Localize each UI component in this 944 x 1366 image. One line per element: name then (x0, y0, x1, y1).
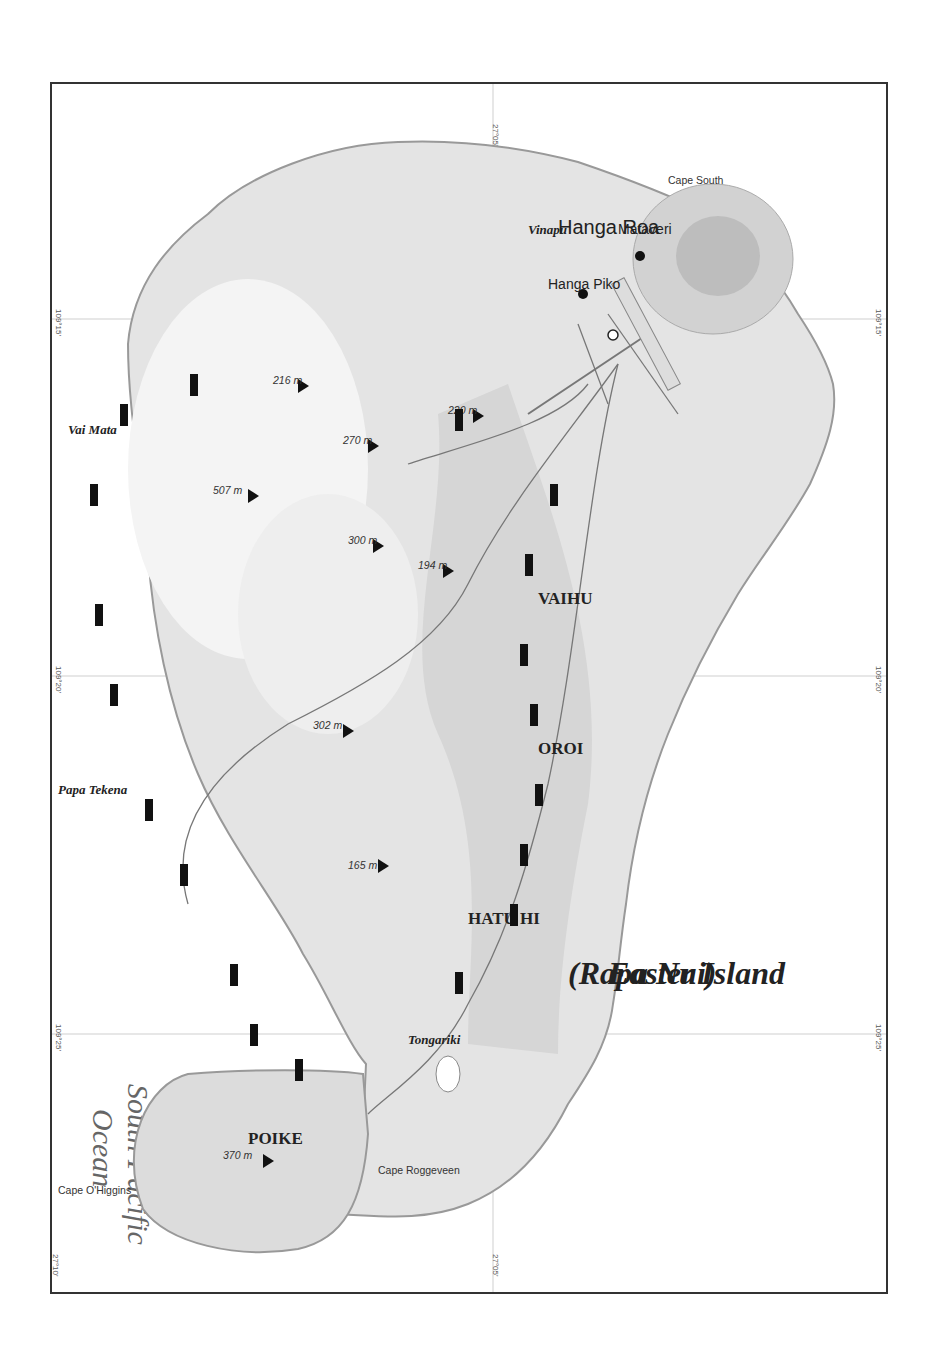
lon-tick-1: 109°15' (874, 309, 883, 336)
peak-tuutapu: 270 m (342, 434, 372, 446)
ahu-papa-tekena: Papa Tekena (58, 782, 128, 797)
hanga-roa-marker (608, 330, 618, 340)
cape-south: Cape South (668, 174, 724, 186)
peak-o-tuu: 300 m (348, 534, 377, 546)
ahu-tongariki: Tongariki (408, 1032, 461, 1047)
mataveri-marker (635, 251, 645, 261)
ahu-vai-mata: Vai Mata (68, 422, 117, 437)
rotated-map-canvas: 27°05' 27°05' 27°10' 109°15' 109°15' 109… (50, 84, 888, 1294)
district-hatu-hi: HATU HI (468, 909, 540, 928)
lon-tick-3: 109°20' (874, 666, 883, 693)
map-frame: 27°05' 27°05' 27°10' 109°15' 109°15' 109… (50, 82, 888, 1294)
peak-kote-miro-oone: 194 m (418, 559, 447, 571)
lon-tick-2: 109°15' (54, 309, 63, 336)
lat-tick-2: 27°05' (491, 1254, 500, 1277)
district-oroi: OROI (538, 739, 584, 758)
island (128, 141, 834, 1252)
lon-tick-4: 109°20' (54, 666, 63, 693)
peak-pui: 302 m (313, 719, 342, 731)
district-poike: POIKE (248, 1129, 303, 1148)
lat-tick-3: 27°10' (51, 1254, 60, 1277)
map-title-2: (Rapa Nui) (568, 955, 716, 991)
peak-vaka-kipo: 216 m (272, 374, 302, 386)
peak-terevaka: 507 m (213, 484, 242, 496)
cape-ohiggins: Cape O'Higgins (58, 1184, 131, 1196)
lon-tick-5: 109°25' (874, 1024, 883, 1051)
easter-island-map: 27°05' 27°05' 27°10' 109°15' 109°15' 109… (50, 84, 888, 1294)
peak-puakatike: 370 m (223, 1149, 252, 1161)
cape-roggeveen: Cape Roggeveen (378, 1164, 460, 1176)
ocean-label-2: Ocean (87, 1109, 120, 1187)
lat-tick-1: 27°05' (491, 124, 500, 147)
town-mataveri: Mataveri (618, 221, 672, 237)
ahu-vinapu: Vinapu (528, 222, 567, 237)
lon-tick-6: 109°25' (54, 1024, 63, 1051)
district-vaihu: VAIHU (538, 589, 592, 608)
town-hanga-piko: Hanga Piko (548, 276, 621, 292)
peak-ana-marama: 165 m (348, 859, 377, 871)
